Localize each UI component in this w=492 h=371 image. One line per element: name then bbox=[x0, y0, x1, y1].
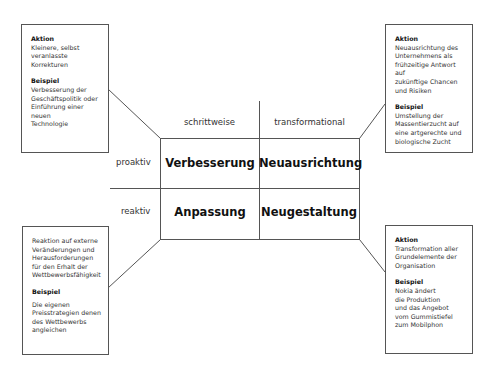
text-line: frühzeitige Antwort auf bbox=[395, 61, 466, 78]
row-label-reaktiv: reaktiv bbox=[121, 206, 150, 216]
text-line: Neuausrichtung des bbox=[395, 44, 466, 53]
example-label: Beispiel bbox=[31, 77, 102, 86]
info-box-top-left: Aktion Kleinere, selbst veranlasste Korr… bbox=[21, 24, 109, 153]
example-label: Beispiel bbox=[32, 288, 102, 297]
action-text: Transformation aller Grundelemente der O… bbox=[395, 245, 466, 271]
text-line: eine artgerechte und bbox=[395, 129, 466, 138]
text-line: Wettbewerbsfähigkeit bbox=[32, 271, 102, 280]
text-line: des Wettbewerbs bbox=[32, 318, 102, 327]
example-text: Umstellung der Massentierzucht auf eine … bbox=[395, 112, 466, 146]
cell-neuausrichtung: Neuausrichtung bbox=[259, 156, 359, 170]
text-line: und das Angebot bbox=[395, 304, 466, 313]
action-text: Kleinere, selbst veranlasste Korrekturen bbox=[31, 44, 102, 70]
text-line: Die eigenen bbox=[32, 301, 102, 310]
action-label: Aktion bbox=[395, 236, 466, 245]
column-header-schrittweise: schrittweise bbox=[160, 117, 259, 127]
connector-top-left bbox=[108, 89, 161, 139]
connector-bottom-right bbox=[360, 240, 386, 273]
text-line: Umstellung der bbox=[395, 112, 466, 121]
cell-neugestaltung: Neugestaltung bbox=[259, 205, 359, 219]
text-line: Verbesserung der bbox=[31, 86, 102, 95]
example-label: Beispiel bbox=[395, 103, 466, 112]
text-line: biologische Zucht bbox=[395, 138, 466, 147]
text-line: die Produktion bbox=[395, 296, 466, 305]
info-box-bottom-left: Reaktion auf externe Veränderungen und H… bbox=[22, 226, 109, 355]
text-line: zukünftige Chancen bbox=[395, 78, 466, 87]
action-label: Aktion bbox=[395, 35, 466, 44]
text-line: Herausforderungen bbox=[32, 254, 102, 263]
text-line: und Risiken bbox=[395, 87, 466, 96]
text-line: angleichen bbox=[32, 326, 102, 335]
row-label-proaktiv: proaktiv bbox=[116, 157, 151, 167]
text-line: Reaktion auf externe bbox=[32, 237, 102, 246]
text-line: Preisstrategien denen bbox=[32, 309, 102, 318]
example-label: Beispiel bbox=[395, 278, 466, 287]
text-line: Geschäftspolitik oder bbox=[31, 95, 102, 104]
text-line: Massentierzucht auf bbox=[395, 120, 466, 129]
text-line: Kleinere, selbst bbox=[31, 44, 102, 53]
text-line: Organisation bbox=[395, 262, 466, 271]
text-line: Nokia ändert bbox=[395, 287, 466, 296]
action-label: Aktion bbox=[31, 35, 102, 44]
info-box-top-right: Aktion Neuausrichtung des Unternehmens a… bbox=[385, 24, 473, 153]
action-text: Reaktion auf externe Veränderungen und H… bbox=[32, 237, 102, 280]
example-text: Verbesserung der Geschäftspolitik oder E… bbox=[31, 86, 102, 129]
text-line: Technologie bbox=[31, 120, 102, 129]
cell-verbesserung: Verbesserung bbox=[160, 156, 260, 170]
column-header-transformational: transformational bbox=[260, 117, 359, 127]
text-line: zum Mobilphon bbox=[395, 321, 466, 330]
example-text: Die eigenen Preisstrategien denen des We… bbox=[32, 301, 102, 335]
connector-top-right bbox=[360, 104, 386, 139]
text-line: Transformation aller bbox=[395, 245, 466, 254]
text-line: Einführung einer neuen bbox=[31, 103, 102, 120]
text-line: Unternehmens als bbox=[395, 52, 466, 61]
text-line: Veränderungen und bbox=[32, 246, 102, 255]
text-line: für den Erhalt der bbox=[32, 263, 102, 272]
example-text: Nokia ändert die Produktion und das Ange… bbox=[395, 287, 466, 330]
info-box-bottom-right: Aktion Transformation aller Grundelement… bbox=[385, 225, 473, 354]
text-line: veranlasste Korrekturen bbox=[31, 52, 102, 69]
action-text: Neuausrichtung des Unternehmens als früh… bbox=[395, 44, 466, 96]
cell-anpassung: Anpassung bbox=[160, 205, 260, 219]
connector-bottom-left bbox=[108, 240, 161, 289]
text-line: Grundelemente der bbox=[395, 253, 466, 262]
text-line: vom Gummistiefel bbox=[395, 313, 466, 322]
